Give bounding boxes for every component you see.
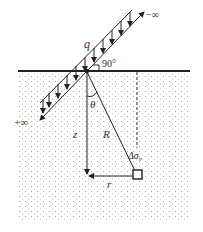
horizontal-label: r [107,178,112,190]
plus-infinity-label: +∞ [14,116,28,128]
line-load-stress-diagram: q 90° θ z R r Δσv +∞ −∞ [0,0,203,232]
theta-label: θ [90,98,96,110]
radius-label: R [102,128,110,140]
stress-element [133,170,142,179]
depth-label: z [72,128,78,140]
right-angle-marker [93,65,99,70]
minus-infinity-label: −∞ [146,9,159,20]
right-angle-label: 90° [102,58,116,69]
load-label: q [84,37,90,51]
soil-region [18,72,190,220]
